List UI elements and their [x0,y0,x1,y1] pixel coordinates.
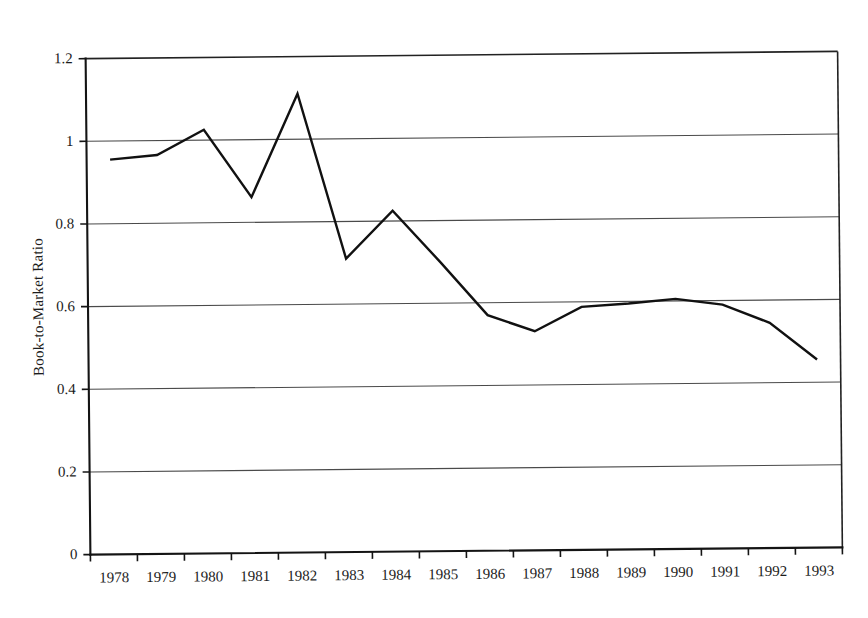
x-tick-label: 1978 [99,569,129,585]
y-axis-title: Book-to-Market Ratio [29,238,46,376]
y-tick-label: 1.2 [54,50,73,66]
y-tick-label: 0 [70,546,78,562]
x-tick-label: 1988 [569,565,599,581]
chart-background [0,0,868,618]
x-tick-label: 1983 [334,567,364,583]
x-tick-label: 1985 [428,566,458,582]
x-tick-label: 1992 [757,563,787,579]
x-tick-label: 1980 [193,568,223,584]
x-tick-label: 1981 [240,568,270,584]
y-tick-label: 0.6 [56,298,75,314]
x-tick-label: 1989 [616,564,646,580]
y-axis-title-group: Book-to-Market Ratio [29,238,46,376]
x-tick-label: 1993 [804,562,834,578]
chart-container: 00.20.40.60.811.2 1978197919801981198219… [0,0,868,618]
y-tick-label: 0.2 [58,463,77,479]
x-tick-label: 1991 [710,563,740,579]
x-tick-label: 1986 [475,566,506,582]
x-tick-label: 1990 [663,564,693,580]
y-tick-label: 0.4 [57,381,76,397]
x-tick-label: 1982 [287,567,317,583]
x-tick-label: 1987 [522,565,553,581]
x-tick-label: 1979 [146,569,176,585]
y-tick-label: 1 [66,133,74,149]
x-tick-label: 1984 [381,567,412,583]
book-to-market-ratio-line-chart: 00.20.40.60.811.2 1978197919801981198219… [0,0,868,618]
y-tick-label: 0.8 [55,215,74,231]
